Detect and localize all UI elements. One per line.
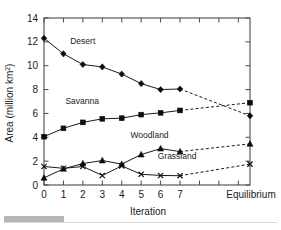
y-axis-title-close: ) xyxy=(4,64,15,67)
y-tick-label: 10 xyxy=(27,60,39,71)
series-label: Woodland xyxy=(130,130,168,140)
y-axis-title-main: Area (million km xyxy=(4,71,15,143)
x-tick-label: 2 xyxy=(80,189,86,200)
marker-square xyxy=(42,134,47,139)
data-series-markers xyxy=(41,35,253,180)
marker-triangle xyxy=(158,145,164,151)
x-tick-label: 5 xyxy=(138,189,144,200)
marker-cross xyxy=(100,173,105,178)
marker-square xyxy=(80,120,85,125)
marker-diamond xyxy=(158,86,164,92)
marker-square xyxy=(100,116,105,121)
svg-text:Area (million km2): Area (million km2) xyxy=(4,64,16,143)
series-line-dashed xyxy=(180,103,250,111)
x-tick-label: 4 xyxy=(119,189,125,200)
marker-diamond xyxy=(100,64,106,70)
marker-triangle xyxy=(247,141,253,147)
marker-square xyxy=(119,116,124,121)
series-annotations: DesertSavannaWoodlandGrassland xyxy=(65,36,196,162)
data-series-lines xyxy=(44,38,250,178)
series-label: Grassland xyxy=(158,151,197,161)
x-tick-label: Equilibrium xyxy=(226,189,275,200)
x-axis-title: Iteration xyxy=(130,206,166,217)
y-tick-label: 6 xyxy=(32,108,38,119)
x-tick-label: 0 xyxy=(41,189,47,200)
marker-triangle xyxy=(41,175,47,181)
marker-triangle xyxy=(99,157,105,163)
marker-diamond xyxy=(138,81,144,87)
series-label: Savanna xyxy=(65,96,99,106)
x-tick-label: 1 xyxy=(61,189,67,200)
x-axis-tick-labels: 01234567Equilibrium xyxy=(41,189,276,200)
y-tick-label: 14 xyxy=(27,13,39,24)
marker-square xyxy=(61,126,66,131)
y-tick-label: 12 xyxy=(27,36,39,47)
y-tick-label: 2 xyxy=(32,156,38,167)
marker-diamond xyxy=(80,61,86,67)
marker-square xyxy=(139,112,144,117)
x-tick-label: 7 xyxy=(177,189,183,200)
x-tick-label: 3 xyxy=(100,189,106,200)
y-tick-label: 0 xyxy=(32,180,38,191)
marker-diamond xyxy=(119,71,125,77)
y-axis-title: Area (million km2) xyxy=(4,64,16,143)
x-tick-label: 6 xyxy=(158,189,164,200)
marker-square xyxy=(158,110,163,115)
chart-figure: 02468101214 01234567Equilibrium DesertSa… xyxy=(0,0,281,230)
marker-square xyxy=(248,100,253,105)
series-label: Desert xyxy=(70,36,96,46)
y-axis-tick-labels: 02468101214 xyxy=(27,13,39,191)
marker-square xyxy=(178,108,183,113)
y-tick-label: 8 xyxy=(32,84,38,95)
series-line-dashed xyxy=(180,89,250,116)
y-tick-label: 4 xyxy=(32,132,38,143)
series-line-solid xyxy=(44,38,180,89)
marker-diamond xyxy=(177,86,183,92)
series-line-dashed xyxy=(180,164,250,176)
